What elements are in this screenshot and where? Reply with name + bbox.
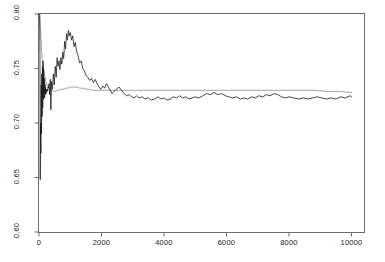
x-axis-ticks: [39, 233, 352, 237]
y-tick-label: 0.70: [12, 109, 21, 135]
plot-frame: [39, 14, 365, 233]
chart-container: 0.600.650.700.750.80 0200040006000800010…: [0, 0, 385, 262]
plot-border: [39, 14, 365, 233]
y-axis-ticks: [35, 14, 39, 232]
y-tick-label: 0.75: [12, 54, 21, 80]
series-line-running-estimate-jagged: [40, 14, 352, 180]
x-tick-label: 8000: [264, 238, 314, 247]
y-tick-label: 0.65: [12, 163, 21, 189]
x-tick-label: 10000: [327, 238, 377, 247]
y-tick-label: 0.80: [12, 0, 21, 26]
series-line-running-estimate-smooth: [40, 14, 352, 92]
x-tick-label: 0: [14, 238, 64, 247]
data-series-layer: [40, 14, 352, 180]
x-tick-label: 6000: [202, 238, 252, 247]
x-tick-label: 4000: [139, 238, 189, 247]
x-tick-label: 2000: [77, 238, 127, 247]
convergence-line-chart: [0, 0, 385, 262]
